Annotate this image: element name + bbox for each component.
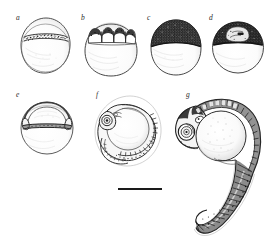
panel-g-hatched-larva: g [166, 88, 277, 243]
panel-d-gastrula-egg: d [204, 10, 272, 84]
scale-bar [118, 188, 162, 190]
figure-plate: a [0, 0, 277, 243]
panel-c-drawing [142, 10, 210, 84]
panel-g-drawing [166, 88, 277, 243]
panel-e-drawing [12, 88, 84, 166]
panel-a-drawing [12, 10, 80, 84]
panel-f-segmentation-embryo: f [88, 88, 172, 180]
panel-b-cleavage-egg: b [76, 10, 146, 84]
panel-f-drawing [88, 88, 172, 180]
panel-d-drawing [204, 10, 272, 84]
panel-a-blastodisc-egg: a [12, 10, 80, 84]
panel-e-germ-ring-egg: e [12, 88, 84, 166]
panel-c-blastula-egg: c [142, 10, 210, 84]
panel-b-drawing [76, 10, 146, 84]
